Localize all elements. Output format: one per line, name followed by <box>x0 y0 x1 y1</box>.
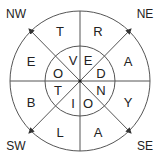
direction-label-sw: SW <box>6 140 25 153</box>
direction-label-ne: NE <box>137 8 154 21</box>
inner-ring-letter: O <box>53 67 63 80</box>
direction-label-nw: NW <box>6 8 26 21</box>
outer-ring-letter: L <box>56 126 63 139</box>
inner-ring-letter: V <box>69 54 78 67</box>
inner-ring-letter: E <box>84 54 93 67</box>
wheel-graphic <box>0 0 161 160</box>
letter-wheel-diagram: NWNESWSETRAYALBEVEDNOITO <box>0 0 161 160</box>
outer-ring-letter: A <box>124 55 133 68</box>
inner-ring-letter: I <box>71 97 75 110</box>
outer-ring-letter: R <box>93 25 102 38</box>
inner-ring-letter: T <box>54 84 62 97</box>
outer-ring-letter: T <box>56 25 64 38</box>
inner-ring-letter: O <box>83 97 93 110</box>
outer-ring-letter: B <box>27 96 36 109</box>
outer-ring-letter: Y <box>124 96 133 109</box>
center-dot <box>78 79 81 82</box>
outer-ring-letter: A <box>94 126 103 139</box>
inner-ring-letter: N <box>96 84 105 97</box>
outer-ring-letter: E <box>27 55 36 68</box>
inner-ring-letter: D <box>96 67 105 80</box>
direction-label-se: SE <box>137 140 153 153</box>
